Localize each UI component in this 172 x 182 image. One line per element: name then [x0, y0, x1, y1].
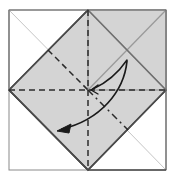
origami-diagram-svg: [0, 0, 172, 182]
origami-figure: [0, 0, 172, 182]
